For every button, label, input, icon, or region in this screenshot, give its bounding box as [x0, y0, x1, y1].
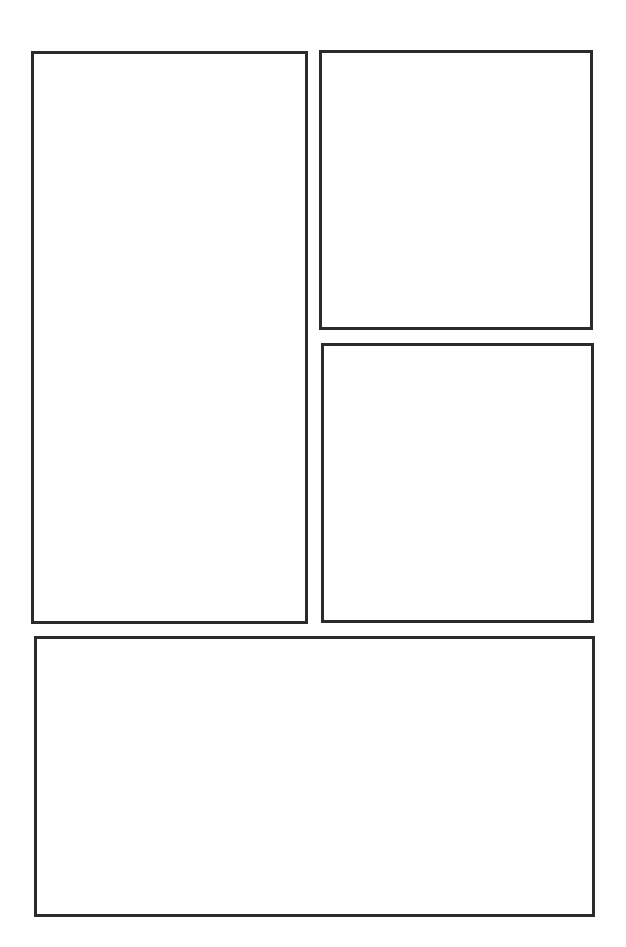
comic-page [0, 0, 626, 947]
panel-bottom-wide [34, 636, 595, 917]
panel-left-tall [31, 51, 308, 624]
panel-middle-right [321, 343, 594, 623]
panel-top-right [319, 50, 593, 330]
